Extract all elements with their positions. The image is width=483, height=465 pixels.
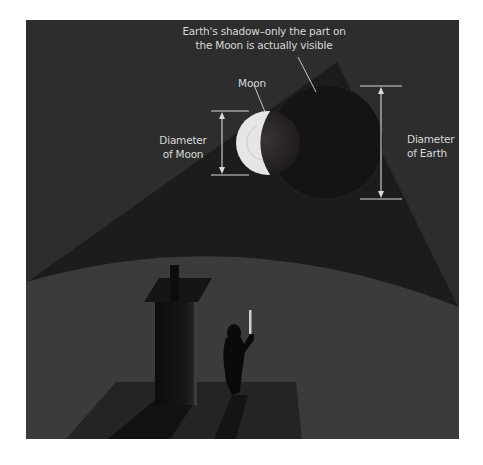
diameter-of-earth-label: Diameter of Earth xyxy=(407,132,459,160)
moon-label: Moon xyxy=(232,76,272,90)
measuring-stick xyxy=(249,310,252,334)
earth-shadow-label: Earth's shadow–only the part on the Moon… xyxy=(149,24,379,52)
diameter-of-moon-label: Diameter of Moon xyxy=(153,133,213,161)
eclipse-diagram-panel: Earth's shadow–only the part on the Moon… xyxy=(26,20,459,439)
